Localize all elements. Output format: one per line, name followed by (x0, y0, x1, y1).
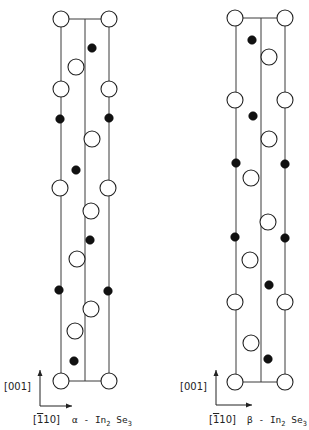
open-atom (53, 373, 69, 389)
filled-atom (86, 236, 95, 245)
open-atom (53, 81, 69, 97)
filled-atom (232, 159, 241, 168)
beta-001-label: [001] (180, 381, 207, 392)
open-atom (227, 374, 243, 390)
alpha-title: α - In2 Se3 (72, 414, 132, 428)
filled-atom (281, 160, 290, 169)
open-atom (101, 11, 117, 27)
open-atom (243, 170, 259, 186)
open-atom (100, 180, 116, 196)
arrow-up-icon (38, 370, 43, 376)
filled-atom (265, 281, 274, 290)
open-atom (261, 49, 277, 65)
open-atom (69, 251, 85, 267)
open-atom (227, 294, 243, 310)
open-atom (277, 374, 293, 390)
open-atom (68, 59, 84, 75)
open-atom (53, 11, 69, 27)
crystal-structure-diagram: [001] [110] α - In2 Se3 [001] [110] β - … (0, 0, 309, 430)
filled-atom (55, 286, 64, 295)
beta-filled-atoms (231, 36, 290, 364)
arrow-right-icon (66, 404, 72, 409)
beta-open-atoms (227, 10, 293, 390)
beta-110-label: [110] (209, 414, 236, 425)
filled-atom (248, 36, 257, 45)
open-atom (227, 10, 243, 26)
open-atom (52, 180, 68, 196)
filled-atom (249, 112, 258, 121)
beta-in2se3-structure: [001] [110] β - In2 Se3 (180, 10, 307, 428)
open-atom (83, 301, 99, 317)
open-atom (260, 214, 276, 230)
filled-atom (56, 115, 65, 124)
open-atom (277, 10, 293, 26)
beta-unit-cell-frame (236, 18, 285, 382)
filled-atom (72, 166, 81, 175)
open-atom (227, 92, 243, 108)
open-atom (67, 323, 83, 339)
open-atom (277, 294, 293, 310)
open-atom (277, 92, 293, 108)
filled-atom (88, 44, 97, 53)
filled-atom (281, 234, 290, 243)
open-atom (101, 373, 117, 389)
alpha-001-label: [001] (4, 381, 31, 392)
filled-atom (104, 287, 113, 296)
open-atom (261, 131, 277, 147)
arrow-up-icon (214, 370, 219, 376)
filled-atom (264, 355, 273, 364)
open-atom (83, 203, 99, 219)
arrow-right-icon (246, 403, 252, 408)
open-atom (243, 335, 259, 351)
alpha-110-label: [110] (33, 414, 60, 425)
filled-atom (231, 233, 240, 242)
filled-atom (105, 114, 114, 123)
open-atom (242, 252, 258, 268)
filled-atom (70, 357, 79, 366)
open-atom (84, 131, 100, 147)
open-atom (101, 81, 117, 97)
beta-title: β - In2 Se3 (247, 414, 307, 428)
alpha-in2se3-structure: [001] [110] α - In2 Se3 (4, 11, 132, 428)
